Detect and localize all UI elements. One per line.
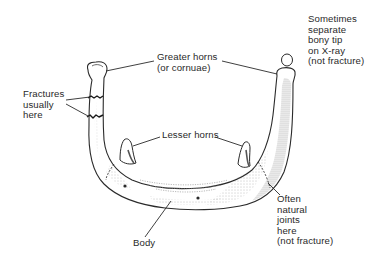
label-bony-tip: Sometimes separate bony tip on X-ray (no… [308, 14, 364, 67]
label-bony-tip-line-1: Sometimes [308, 14, 364, 25]
label-natural-joints: Often natural joints here (not fracture) [277, 194, 333, 247]
label-greater-horns: Greater horns (or cornuae) [157, 52, 218, 73]
label-greater-horns-line-1: Greater horns [157, 52, 218, 63]
leader-fractures-upper [66, 97, 90, 100]
label-fractures: Fractures usually here [23, 89, 64, 121]
leader-greater-horns-left [106, 61, 154, 71]
leader-lesser-horns-left [133, 137, 160, 146]
label-fractures-line-1: Fractures [23, 89, 64, 100]
bony-tip [282, 54, 293, 66]
label-body-line-1: Body [133, 238, 155, 249]
label-greater-horns-line-2: (or cornuae) [157, 63, 218, 74]
label-body: Body [133, 238, 155, 249]
label-lesser-horns-line-1: Lesser horns [162, 130, 219, 141]
label-fractures-line-3: here [23, 110, 64, 121]
leader-lesser-horns-right [215, 137, 242, 146]
leader-fractures-lower [66, 104, 88, 116]
label-bony-tip-line-5: (not fracture) [308, 56, 364, 67]
label-natural-joints-line-1: Often [277, 194, 333, 205]
lesser-horns [120, 139, 250, 167]
label-lesser-horns: Lesser horns [162, 130, 219, 141]
label-natural-joints-line-5: (not fracture) [277, 236, 333, 247]
leader-greater-horns-right [222, 61, 277, 74]
